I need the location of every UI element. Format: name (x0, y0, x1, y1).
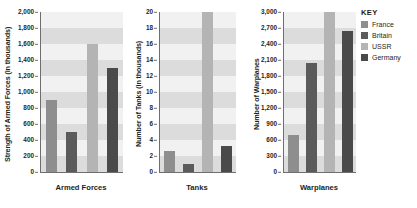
legend-swatch-icon (361, 54, 368, 61)
legend-entries: FranceBritainUSSRGermany (361, 21, 415, 62)
y-tick-label: 2,700 (261, 25, 277, 31)
legend-swatch-icon (361, 21, 368, 28)
y-tick-label: 1,400 (18, 57, 34, 63)
y-tick-label: 1,000 (18, 89, 34, 95)
bar-britain (306, 63, 317, 172)
bar-france (46, 100, 57, 172)
legend-item-label: Britain (372, 32, 392, 39)
y-tick-label: 0 (30, 169, 34, 175)
bar-britain (66, 132, 77, 172)
y-tick-label: 600 (23, 121, 34, 127)
bar-chart-figure: Strength of Armed Forces (in thousands) … (0, 0, 417, 208)
y-tick-label: 1,800 (18, 25, 34, 31)
bar-ussr (202, 12, 213, 172)
y-tick-label: 20 (146, 9, 153, 15)
y-tick-label: 400 (23, 137, 34, 143)
bar-germany (107, 68, 118, 172)
y-tick-label: 1,800 (261, 73, 277, 79)
bar-britain (183, 164, 194, 172)
legend-title: KEY (361, 8, 415, 17)
bar-ussr (324, 12, 335, 172)
legend-item-ussr[interactable]: USSR (361, 43, 415, 51)
chart-panel-tanks: Number of Tanks (in thousands) 201816141… (131, 0, 249, 208)
bar-france (164, 151, 175, 172)
legend-swatch-icon (361, 43, 368, 50)
y-tick-label: 8 (149, 105, 153, 111)
x-axis-label-armed-forces: Armed Forces (40, 183, 122, 192)
bar-group-armed-forces (41, 12, 123, 172)
chart-panel-armed-forces: Strength of Armed Forces (in thousands) … (0, 0, 132, 208)
y-tick-label: 200 (23, 153, 34, 159)
chart-panel-warplanes: Number of Warplanes 3,0002,7002,4002,100… (249, 0, 361, 208)
y-tick-label: 300 (266, 153, 277, 159)
y-axis-ticks-warplanes: 3,0002,7002,4002,1001,8001,5001,20090060… (253, 12, 281, 172)
y-tick-label: 3,000 (261, 9, 277, 15)
legend-swatch-icon (361, 32, 368, 39)
y-tick-label: 1,200 (18, 73, 34, 79)
legend-item-label: USSR (372, 43, 391, 50)
y-axis-ticks-tanks: 20181614121086420 (137, 12, 157, 172)
legend-item-france[interactable]: France (361, 21, 415, 29)
bar-group-tanks (160, 12, 236, 172)
plot-area-armed-forces (40, 12, 123, 173)
y-tick-label: 10 (146, 89, 153, 95)
chart-legend: KEY FranceBritainUSSRGermany (361, 8, 415, 65)
bar-france (288, 135, 299, 172)
legend-item-britain[interactable]: Britain (361, 32, 415, 40)
y-tick-label: 0 (273, 169, 277, 175)
plot-area-warplanes (283, 12, 356, 173)
y-axis-ticks-armed-forces: 2,0001,8001,6001,4001,2001,0008006004002… (12, 12, 38, 172)
x-axis-label-tanks: Tanks (159, 183, 235, 192)
legend-item-germany[interactable]: Germany (361, 54, 415, 62)
y-tick-label: 4 (149, 137, 153, 143)
y-tick-label: 16 (146, 41, 153, 47)
y-tick-label: 800 (23, 105, 34, 111)
plot-area-tanks (159, 12, 236, 173)
legend-item-label: France (372, 21, 394, 28)
y-tick-label: 1,600 (18, 41, 34, 47)
y-tick-label: 6 (149, 121, 153, 127)
y-tick-label: 14 (146, 57, 153, 63)
y-tick-label: 12 (146, 73, 153, 79)
bar-group-warplanes (284, 12, 356, 172)
legend-item-label: Germany (372, 54, 401, 61)
x-axis-label-warplanes: Warplanes (283, 183, 355, 192)
y-tick-label: 900 (266, 121, 277, 127)
bar-ussr (87, 44, 98, 172)
y-tick-label: 1,500 (261, 89, 277, 95)
y-tick-label: 2,100 (261, 57, 277, 63)
y-tick-label: 2,400 (261, 41, 277, 47)
y-tick-label: 2 (149, 153, 153, 159)
y-tick-label: 18 (146, 25, 153, 31)
y-tick-label: 0 (149, 169, 153, 175)
y-tick-label: 1,200 (261, 105, 277, 111)
bar-germany (221, 146, 232, 172)
y-tick-label: 2,000 (18, 9, 34, 15)
bar-germany (342, 31, 353, 172)
y-tick-label: 600 (266, 137, 277, 143)
